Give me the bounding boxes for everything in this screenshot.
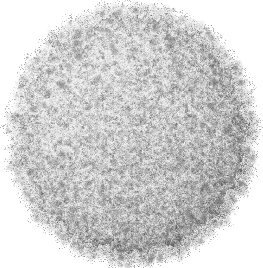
figure-stage: Spherical virus capsid surface: [0, 0, 263, 268]
virus-capsid-surface-render: [0, 0, 263, 268]
